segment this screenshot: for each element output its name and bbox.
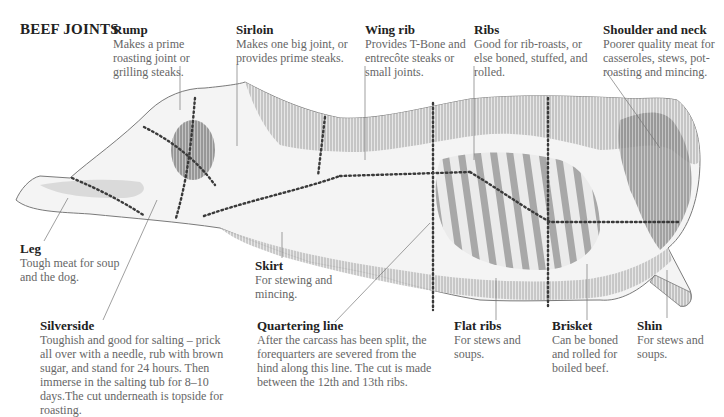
label-ribs: Ribs Good for rib-roasts, or else boned,… <box>474 22 589 79</box>
label-shin-desc: For stews and soups. <box>637 333 712 361</box>
label-wing-rib-desc: Provides T-Bone and entrecôte steaks or … <box>365 37 470 79</box>
label-quartering-line-desc: After the carcass has been split, the fo… <box>257 333 432 389</box>
label-rump-desc: Makes a prime roasting joint or grilling… <box>113 37 208 79</box>
label-skirt: Skirt For stewing and mincing. <box>255 258 350 301</box>
label-leg-desc: Tough meat for soup and the dog. <box>20 256 120 284</box>
label-wing-rib: Wing rib Provides T-Bone and entrecôte s… <box>365 22 470 79</box>
label-ribs-desc: Good for rib-roasts, or else boned, stuf… <box>474 37 589 79</box>
label-brisket-desc: Can be boned and rolled for boiled beef. <box>552 333 620 375</box>
label-ribs-name: Ribs <box>474 22 589 37</box>
label-sirloin-name: Sirloin <box>236 22 356 37</box>
label-silverside-name: Silverside <box>40 318 235 333</box>
label-shin: Shin For stews and soups. <box>637 318 712 361</box>
label-skirt-name: Skirt <box>255 258 350 273</box>
label-shoulder-neck-name: Shoulder and neck <box>603 22 721 37</box>
label-quartering-line: Quartering line After the carcass has be… <box>257 318 432 389</box>
label-sirloin-desc: Makes one big joint, or provides prime s… <box>236 37 356 65</box>
label-silverside-desc: Toughish and good for salting – prick al… <box>40 333 235 417</box>
label-wing-rib-name: Wing rib <box>365 22 470 37</box>
label-rump-name: Rump <box>113 22 208 37</box>
label-flat-ribs-desc: For stews and soups. <box>454 333 526 361</box>
label-flat-ribs-name: Flat ribs <box>454 318 526 333</box>
label-shoulder-neck: Shoulder and neck Poorer quality meat fo… <box>603 22 721 79</box>
label-leg: Leg Tough meat for soup and the dog. <box>20 241 120 284</box>
label-quartering-line-name: Quartering line <box>257 318 432 333</box>
label-brisket: Brisket Can be boned and rolled for boil… <box>552 318 620 375</box>
label-shin-name: Shin <box>637 318 712 333</box>
label-shoulder-neck-desc: Poorer quality meat for casseroles, stew… <box>603 37 721 79</box>
label-flat-ribs: Flat ribs For stews and soups. <box>454 318 526 361</box>
label-skirt-desc: For stewing and mincing. <box>255 273 350 301</box>
label-silverside: Silverside Toughish and good for salting… <box>40 318 235 417</box>
label-leg-name: Leg <box>20 241 120 256</box>
label-brisket-name: Brisket <box>552 318 620 333</box>
label-sirloin: Sirloin Makes one big joint, or provides… <box>236 22 356 65</box>
label-rump: Rump Makes a prime roasting joint or gri… <box>113 22 208 79</box>
